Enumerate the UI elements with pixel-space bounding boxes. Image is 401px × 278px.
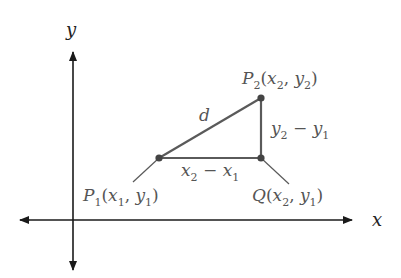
p1-leader	[133, 158, 159, 182]
q-label: Q(x2, y1)	[252, 185, 323, 209]
point-p2	[257, 94, 264, 101]
p1-label: P1(x1, y1)	[82, 185, 159, 209]
p2-label: P2(x2, y2)	[241, 68, 318, 92]
hypotenuse-d	[159, 98, 261, 158]
distance-diagram: x y d P2(x2, y2) y2 − y1 x2 − x1 P1(x1, …	[0, 0, 401, 278]
y-axis-label: y	[65, 19, 77, 40]
vertical-leg-label: y2 − y1	[270, 118, 329, 142]
point-p1	[155, 154, 162, 161]
hypotenuse-label: d	[199, 105, 210, 125]
point-q	[257, 154, 264, 161]
horizontal-leg-label: x2 − x1	[181, 160, 239, 184]
q-leader	[261, 158, 289, 184]
x-axis-label: x	[372, 209, 382, 230]
